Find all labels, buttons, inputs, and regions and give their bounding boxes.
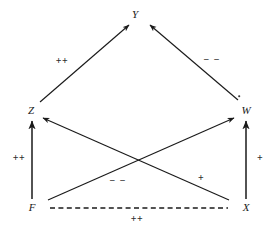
edge-x-to-z xyxy=(43,118,229,200)
node-label-f: F xyxy=(29,202,36,213)
causal-path-diagram: Y Z W F X ++ − − ++ + + − − ++ xyxy=(0,0,275,231)
edge-sign-f-to-z: ++ xyxy=(13,153,25,163)
node-label-w: W xyxy=(241,105,250,116)
diagram-canvas xyxy=(0,0,275,231)
node-label-z: Z xyxy=(28,105,34,116)
edge-sign-x-to-w: + xyxy=(257,153,263,163)
edge-z-to-y xyxy=(40,25,129,102)
edge-f-to-w xyxy=(48,118,234,200)
node-label-x: X xyxy=(243,202,250,213)
edge-layer xyxy=(32,25,246,208)
edge-w-to-y xyxy=(150,25,238,100)
edge-sign-f-x-association: ++ xyxy=(131,214,143,224)
edge-sign-z-to-y: ++ xyxy=(56,56,68,66)
edge-sign-w-to-y: − − xyxy=(204,55,221,65)
node-label-y: Y xyxy=(132,9,138,20)
edge-sign-x-to-z: − − xyxy=(110,176,127,186)
scan-speck-icon xyxy=(238,95,240,97)
edge-sign-f-to-w: + xyxy=(198,173,204,183)
